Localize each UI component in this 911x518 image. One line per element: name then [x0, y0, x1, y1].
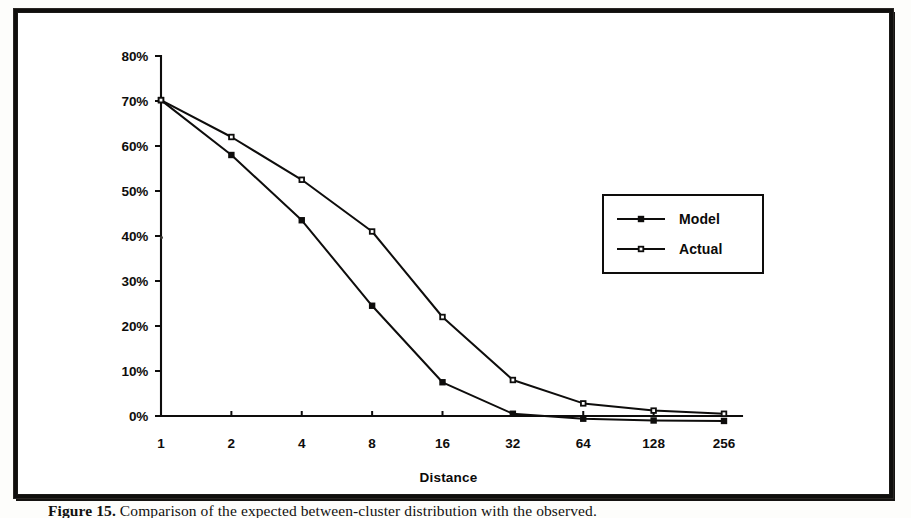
y-axis-tick-label: 60%: [122, 139, 149, 154]
data-point-actual: [651, 408, 656, 413]
figure-frame: 0%10%20%30%40%50%60%70%80%12481632641282…: [14, 9, 893, 498]
x-axis-tick-label: 128: [642, 436, 665, 451]
figure-page: 0%10%20%30%40%50%60%70%80%12481632641282…: [0, 0, 911, 518]
x-axis-tick-label: 2: [228, 436, 236, 451]
caption-label: Figure 15.: [48, 503, 116, 518]
data-point-model: [651, 418, 656, 423]
chart-plot-area: 0%10%20%30%40%50%60%70%80%12481632641282…: [17, 12, 896, 501]
data-point-actual: [229, 135, 234, 140]
line-chart: 0%10%20%30%40%50%60%70%80%12481632641282…: [17, 12, 896, 501]
data-point-actual: [299, 177, 304, 182]
x-axis-title: Distance: [420, 470, 478, 485]
x-axis-tick-label: 8: [368, 436, 376, 451]
legend-label: Actual: [679, 241, 722, 257]
data-point-model: [440, 380, 445, 385]
data-point-actual: [159, 98, 164, 103]
legend-marker-actual: [639, 247, 644, 252]
data-point-actual: [511, 378, 516, 383]
scan-speck: [160, 236, 163, 239]
legend-box: [603, 195, 763, 273]
x-axis-tick-label: 16: [435, 436, 451, 451]
data-point-model: [370, 303, 375, 308]
data-point-model: [722, 419, 727, 424]
y-axis-tick-label: 10%: [122, 364, 149, 379]
legend-marker-model: [639, 217, 644, 222]
y-axis-tick-label: 70%: [122, 94, 149, 109]
figure-caption: Figure 15. Comparison of the expected be…: [48, 503, 888, 518]
legend-label: Model: [679, 211, 720, 227]
x-axis-tick-label: 32: [505, 436, 520, 451]
data-point-actual: [722, 411, 727, 416]
data-point-model: [511, 411, 516, 416]
x-axis-tick-label: 4: [298, 436, 306, 451]
data-point-model: [229, 153, 234, 158]
data-point-actual: [440, 315, 445, 320]
data-point-actual: [370, 229, 375, 234]
y-axis-tick-label: 20%: [122, 319, 149, 334]
data-point-model: [299, 218, 304, 223]
x-axis-tick-label: 256: [713, 436, 736, 451]
y-axis-tick-label: 40%: [122, 229, 149, 244]
data-point-actual: [581, 401, 586, 406]
data-point-model: [581, 416, 586, 421]
caption-body: Comparison of the expected between-clust…: [116, 503, 597, 518]
y-axis-tick-label: 30%: [122, 274, 149, 289]
figure-caption-text: Figure 15. Comparison of the expected be…: [48, 503, 888, 518]
y-axis-tick-label: 80%: [122, 49, 149, 64]
x-axis-tick-label: 64: [576, 436, 592, 451]
y-axis-tick-label: 0%: [129, 409, 148, 424]
y-axis-tick-label: 50%: [122, 184, 149, 199]
x-axis-tick-label: 1: [157, 436, 165, 451]
